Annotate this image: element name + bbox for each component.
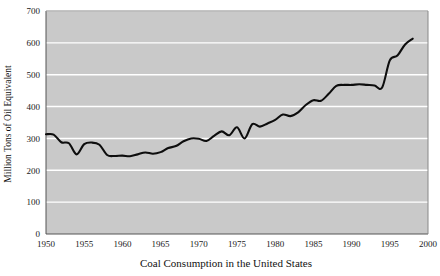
plot-area-background — [46, 11, 428, 234]
y-axis-tick-label: 0 — [36, 229, 41, 239]
x-axis-tick-label: 1965 — [152, 239, 171, 249]
x-axis-tick-label: 2000 — [419, 239, 438, 249]
x-axis-tick-label: 1950 — [37, 239, 56, 249]
y-axis-tick-label: 100 — [27, 197, 41, 207]
coal-consumption-line-chart: 0100200300400500600700 19501955196019651… — [0, 0, 440, 276]
y-axis-tick-label: 700 — [27, 6, 41, 16]
y-axis-tick-label: 200 — [27, 166, 41, 176]
x-axis-tick-label: 1960 — [113, 239, 132, 249]
x-axis-tick-label: 1980 — [266, 239, 285, 249]
x-axis-tick-label: 1970 — [190, 239, 209, 249]
x-axis-tick-label: 1990 — [343, 239, 362, 249]
x-axis-tick-label: 1995 — [381, 239, 400, 249]
x-axis-tick-label: 1955 — [75, 239, 94, 249]
x-axis-tick-label: 1975 — [228, 239, 247, 249]
y-axis-title: Million Tons of Oil Equivalent — [3, 65, 13, 183]
y-axis-tick-label: 300 — [27, 134, 41, 144]
y-axis-tick-label: 600 — [27, 38, 41, 48]
x-axis-title: Coal Consumption in the United States — [140, 257, 312, 269]
y-axis-tick-label: 500 — [27, 70, 41, 80]
x-axis-tick-label: 1985 — [304, 239, 323, 249]
y-axis-tick-label: 400 — [27, 102, 41, 112]
chart-container: 0100200300400500600700 19501955196019651… — [0, 0, 440, 276]
